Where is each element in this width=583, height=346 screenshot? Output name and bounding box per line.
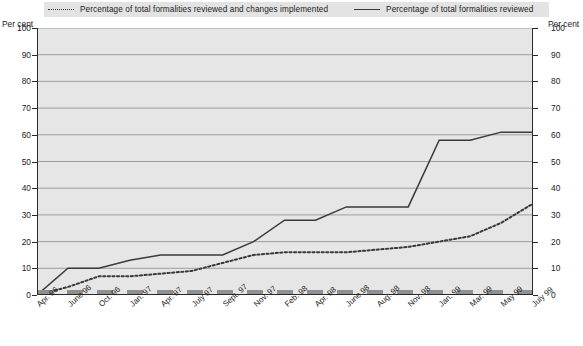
legend-item-reviewed: Percentage of total formalities reviewed — [354, 5, 533, 14]
y-tick-mark-right — [533, 215, 538, 216]
y-tick-mark-right — [533, 188, 538, 189]
y-tick-label-right: 10 — [551, 263, 573, 273]
dotted-line-swatch-icon — [48, 9, 74, 10]
y-tick-label-left: 100 — [9, 23, 31, 33]
y-tick-mark-left — [32, 268, 37, 269]
y-tick-label-left: 90 — [9, 50, 31, 60]
y-tick-mark-right — [533, 81, 538, 82]
y-tick-mark-left — [32, 215, 37, 216]
series-line-1 — [37, 204, 532, 295]
series-group — [37, 132, 532, 295]
legend-item-reviewed-and-implemented: Percentage of total formalities reviewed… — [48, 5, 328, 14]
y-tick-label-right: 70 — [551, 103, 573, 113]
y-tick-label-left: 30 — [9, 210, 31, 220]
solid-line-swatch-icon — [354, 9, 380, 10]
y-tick-mark-left — [32, 28, 37, 29]
y-tick-label-right: 80 — [551, 76, 573, 86]
y-tick-mark-right — [533, 162, 538, 163]
y-tick-mark-left — [32, 295, 37, 296]
y-tick-label-left: 80 — [9, 76, 31, 86]
y-tick-label-right: 60 — [551, 130, 573, 140]
y-tick-mark-right — [533, 55, 538, 56]
y-tick-label-right: 40 — [551, 183, 573, 193]
series-line-0 — [37, 132, 532, 295]
y-tick-mark-left — [32, 108, 37, 109]
y-tick-label-right: 30 — [551, 210, 573, 220]
y-tick-label-left: 0 — [9, 290, 31, 300]
y-tick-label-left: 50 — [9, 157, 31, 167]
y-tick-mark-left — [32, 55, 37, 56]
y-tick-mark-left — [32, 162, 37, 163]
y-tick-label-right: 50 — [551, 157, 573, 167]
y-tick-label-left: 10 — [9, 263, 31, 273]
plot-area — [37, 28, 532, 295]
gridlines-group — [37, 28, 532, 268]
y-tick-mark-left — [32, 242, 37, 243]
y-tick-label-left: 40 — [9, 183, 31, 193]
y-tick-mark-left — [32, 188, 37, 189]
y-tick-mark-right — [533, 135, 538, 136]
y-tick-mark-right — [533, 28, 538, 29]
y-tick-label-right: 20 — [551, 237, 573, 247]
chart-figure: Percentage of total formalities reviewed… — [0, 0, 583, 346]
legend-label-reviewed-and-implemented: Percentage of total formalities reviewed… — [80, 5, 328, 14]
y-tick-mark-right — [533, 242, 538, 243]
y-tick-mark-right — [533, 268, 538, 269]
y-tick-label-left: 20 — [9, 237, 31, 247]
legend-label-reviewed: Percentage of total formalities reviewed — [386, 5, 533, 14]
chart-legend: Percentage of total formalities reviewed… — [44, 2, 549, 17]
chart-svg — [37, 28, 532, 295]
y-tick-mark-left — [32, 135, 37, 136]
y-tick-mark-left — [32, 81, 37, 82]
y-tick-label-left: 70 — [9, 103, 31, 113]
y-tick-label-right: 90 — [551, 50, 573, 60]
y-axis-left-line — [37, 28, 38, 295]
y-tick-label-left: 60 — [9, 130, 31, 140]
y-tick-mark-right — [533, 108, 538, 109]
y-tick-label-right: 100 — [551, 23, 573, 33]
